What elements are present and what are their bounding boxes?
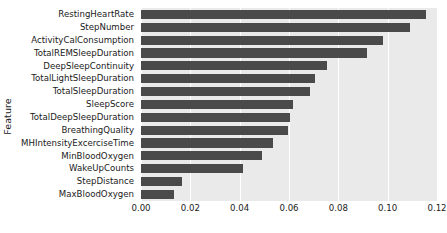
bar-series <box>141 8 437 201</box>
y-axis-tick-label: TotalREMSleepDuration <box>14 47 138 60</box>
y-axis-tick-label: StepDistance <box>14 175 138 188</box>
plot-area <box>141 8 437 201</box>
x-axis-tick-label: 0.06 <box>279 203 298 213</box>
y-axis-title: Feature <box>0 0 14 233</box>
x-axis-tick-label: 0.02 <box>181 203 200 213</box>
bar <box>141 23 410 32</box>
bar <box>141 10 426 19</box>
bar-row <box>141 149 437 162</box>
y-axis-tick-label: TotalDeepSleepDuration <box>14 111 138 124</box>
y-axis-tick-label: ActivityCalConsumption <box>14 34 138 47</box>
y-axis-tick-label: RestingHeartRate <box>14 8 138 21</box>
bar <box>141 61 327 70</box>
bar-row <box>141 188 437 201</box>
bar-row <box>141 175 437 188</box>
y-axis-tick-labels: RestingHeartRateStepNumberActivityCalCon… <box>14 8 138 201</box>
y-axis-tick-label: SleepScore <box>14 98 138 111</box>
bar <box>141 190 174 199</box>
bar-row <box>141 137 437 150</box>
bar <box>141 100 293 109</box>
bar-row <box>141 47 437 60</box>
bar <box>141 48 367 57</box>
bar <box>141 177 182 186</box>
bar-row <box>141 8 437 21</box>
x-axis-tick-label: 0.12 <box>427 203 446 213</box>
bar-row <box>141 111 437 124</box>
bar <box>141 126 288 135</box>
y-axis-tick-label: BreathingQuality <box>14 124 138 137</box>
bar <box>141 151 262 160</box>
bar <box>141 164 243 173</box>
bar <box>141 113 290 122</box>
bar <box>141 87 310 96</box>
y-axis-tick-label: TotalLightSleepDuration <box>14 72 138 85</box>
bar-row <box>141 34 437 47</box>
y-axis-tick-label: DeepSleepContinuity <box>14 59 138 72</box>
x-axis-tick-labels: 0.000.020.040.060.080.100.12 <box>141 203 437 219</box>
x-axis-tick-label: 0.10 <box>378 203 397 213</box>
bar-row <box>141 21 437 34</box>
bar-row <box>141 85 437 98</box>
y-axis-tick-label: TotalSleepDuration <box>14 85 138 98</box>
bar-row <box>141 59 437 72</box>
x-axis-tick-label: 0.04 <box>230 203 249 213</box>
bar <box>141 138 273 147</box>
x-axis-tick-label: 0.08 <box>329 203 348 213</box>
y-axis-tick-label: MHIntensityExcerciseTime <box>14 137 138 150</box>
bar-row <box>141 162 437 175</box>
bar <box>141 36 383 45</box>
bar <box>141 74 315 83</box>
y-axis-tick-label: WakeUpCounts <box>14 162 138 175</box>
y-axis-tick-label: MaxBloodOxygen <box>14 188 138 201</box>
x-axis-tick-label: 0.00 <box>131 203 150 213</box>
bar-row <box>141 124 437 137</box>
bar-row <box>141 72 437 85</box>
y-axis-tick-label: MinBloodOxygen <box>14 149 138 162</box>
bar-row <box>141 98 437 111</box>
y-axis-tick-label: StepNumber <box>14 21 138 34</box>
